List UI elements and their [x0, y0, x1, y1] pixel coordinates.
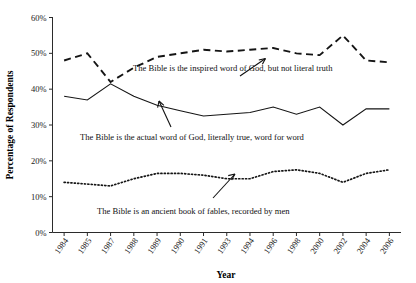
y-axis-tick-label: 50% [31, 48, 47, 58]
series-line-inspired [64, 35, 389, 82]
x-axis-tick-label: 2000 [308, 236, 326, 256]
chart-container: Percentage of Respondents 0%10%20%30%40%… [0, 0, 416, 283]
x-axis-tick-label: 1991 [192, 236, 210, 256]
annotation-literal-label: The Bible is the actual word of God, lit… [80, 132, 305, 142]
x-axis-tick-label: 2004 [354, 235, 372, 255]
y-axis-title: Percentage of Respondents [5, 70, 15, 179]
annotation-inspired-label: The Bible is the inspired word of God, b… [133, 63, 333, 73]
x-axis-tick-label: 1989 [145, 236, 163, 256]
x-axis-tick-label: 1987 [99, 236, 117, 256]
leader-line-literal [159, 101, 171, 127]
x-axis-tick-label: 1990 [168, 236, 186, 256]
y-axis-tick-label: 10% [31, 192, 47, 202]
y-axis-tick-label: 0% [35, 228, 46, 238]
line-chart-svg: Percentage of Respondents 0%10%20%30%40%… [0, 0, 416, 283]
x-axis-tick-label: 2002 [331, 236, 349, 256]
x-axis-tick-label: 1984 [52, 235, 70, 255]
y-axis-tick-label: 30% [31, 120, 47, 130]
x-axis-tick-label: 1985 [76, 236, 94, 256]
y-axis: 0%10%20%30%40%50%60% [31, 13, 53, 238]
x-axis-tick-label: 1996 [261, 236, 279, 256]
y-axis-tick-label: 60% [31, 13, 47, 23]
x-axis-tick-label: 1993 [215, 236, 233, 256]
x-axis: 1984198519871988198919901991199319941996… [52, 233, 395, 256]
x-axis-tick-label: 2006 [378, 236, 396, 256]
y-axis-tick-label: 40% [31, 84, 47, 94]
x-axis-tick-label: 1988 [122, 236, 140, 256]
x-axis-title: Year [217, 270, 237, 280]
x-axis-tick-label: 1998 [285, 236, 303, 256]
annotation-fables-label: The Bible is an ancient book of fables, … [97, 206, 290, 216]
y-axis-tick-label: 20% [31, 156, 47, 166]
series-line-literal [64, 84, 389, 125]
x-axis-tick-label: 1994 [238, 235, 256, 255]
